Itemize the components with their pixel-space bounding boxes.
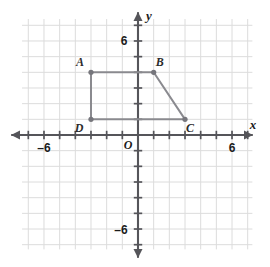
vertex-label-b: B (155, 55, 164, 69)
vertex-label-c: C (186, 121, 195, 135)
coordinate-plane-figure: ABCD–666–6Oxy (0, 0, 270, 267)
vertex-point-a (88, 70, 93, 75)
x-axis-arrow-left (11, 131, 20, 140)
origin-label: O (124, 138, 133, 152)
y-axis-name-label: y (144, 8, 152, 23)
vertex-point-b (151, 70, 156, 75)
y-tick-label-neg6: –6 (114, 223, 128, 237)
y-axis-arrow-up (134, 12, 143, 21)
vertex-label-d: D (74, 121, 84, 135)
x-tick-label-6: 6 (229, 141, 236, 155)
vertex-label-a: A (75, 55, 84, 69)
vertex-point-d (88, 117, 93, 122)
y-axis-arrow-down (134, 249, 143, 258)
x-tick-label-neg6: –6 (37, 141, 51, 155)
figure-text-labels: ABCD–666–6Oxy (37, 8, 256, 237)
y-tick-label-6: 6 (121, 34, 128, 48)
x-axis-name-label: x (249, 117, 257, 132)
coordinate-plane-svg: ABCD–666–6Oxy (0, 0, 270, 267)
